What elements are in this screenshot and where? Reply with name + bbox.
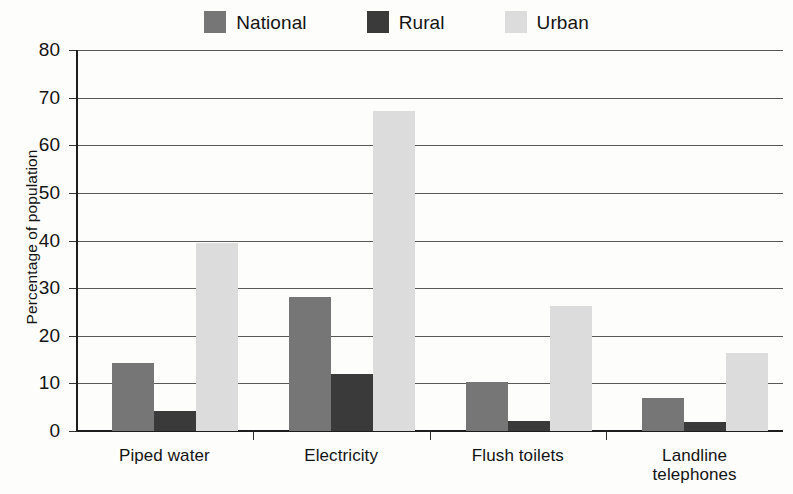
x-label-landline-telephones: Landlinetelephones: [606, 446, 783, 484]
x-label-line: Piped water: [76, 446, 253, 465]
bar-urban-landline-telephones: [726, 353, 768, 431]
y-tick-label: 70: [14, 88, 60, 107]
legend-item-rural: Rural: [367, 11, 445, 33]
bar-chart: National Rural Urban Percentage of popul…: [0, 0, 793, 494]
bar-urban-flush-toilets: [550, 306, 592, 431]
y-tick-label: 80: [14, 40, 60, 59]
bar-rural-flush-toilets: [508, 421, 550, 431]
legend-item-national: National: [204, 11, 307, 33]
y-tick-label: 40: [14, 231, 60, 250]
chart-legend: National Rural Urban: [0, 8, 793, 36]
legend-label-urban: Urban: [537, 13, 589, 32]
y-tick-label: 60: [14, 135, 60, 154]
bar-national-electricity: [289, 297, 331, 431]
x-axis-category-labels: Piped waterElectricityFlush toiletsLandl…: [76, 446, 783, 494]
x-label-line: telephones: [606, 465, 783, 484]
legend-label-rural: Rural: [399, 13, 445, 32]
plot-area: [76, 50, 783, 431]
bar-urban-electricity: [373, 111, 415, 431]
y-tick-label: 10: [14, 373, 60, 392]
x-label-line: Flush toilets: [430, 446, 607, 465]
x-label-electricity: Electricity: [253, 446, 430, 465]
y-tick-label: 20: [14, 326, 60, 345]
y-axis-tick-labels: 80706050403020100: [14, 50, 60, 431]
bar-national-landline-telephones: [642, 398, 684, 431]
bar-rural-electricity: [331, 374, 373, 431]
y-tick-label: 0: [14, 421, 60, 440]
x-label-flush-toilets: Flush toilets: [430, 446, 607, 465]
bar-rural-piped-water: [154, 411, 196, 431]
bar-urban-piped-water: [196, 243, 238, 431]
x-tick-mark: [430, 431, 431, 440]
bar-national-flush-toilets: [466, 382, 508, 431]
y-tick-label: 50: [14, 183, 60, 202]
bars-layer: [76, 50, 783, 431]
x-tick-mark: [606, 431, 607, 440]
x-label-line: Electricity: [253, 446, 430, 465]
legend-swatch-urban: [505, 11, 527, 33]
bar-national-piped-water: [112, 363, 154, 431]
legend-swatch-national: [204, 11, 226, 33]
y-tick-mark: [69, 431, 77, 432]
x-label-piped-water: Piped water: [76, 446, 253, 465]
legend-swatch-rural: [367, 11, 389, 33]
bar-rural-landline-telephones: [684, 422, 726, 431]
y-tick-label: 30: [14, 278, 60, 297]
x-label-line: Landline: [606, 446, 783, 465]
legend-item-urban: Urban: [505, 11, 589, 33]
legend-label-national: National: [236, 13, 307, 32]
x-tick-mark: [253, 431, 254, 440]
